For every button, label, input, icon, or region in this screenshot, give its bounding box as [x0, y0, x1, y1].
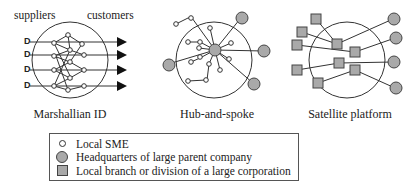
supplier-marker-4: D: [24, 80, 31, 90]
legend-label: Headquarters of large parent company: [76, 151, 252, 163]
supplier-marker-2: D: [24, 49, 31, 59]
supplier-marker-1: D: [24, 36, 31, 46]
legend-label: Local branch or division of a large corp…: [76, 165, 291, 177]
marshallian-diagram: [30, 22, 117, 98]
hub-spoke-sme-nodes: [174, 16, 234, 84]
caption-hub-and-spoke: Hub-and-spoke: [172, 107, 262, 122]
satellite-hq-nodes: [388, 13, 402, 94]
legend-item-local-branch: Local branch or division of a large corp…: [56, 164, 292, 178]
caption-marshallian: Marshallian ID: [30, 107, 110, 122]
legend: Local SME Headquarters of large parent c…: [49, 133, 299, 181]
large-gray-circle-icon: [56, 151, 70, 164]
caption-satellite-platform: Satellite platform: [300, 107, 400, 122]
satellite-branch-nodes: [292, 14, 360, 88]
small-open-circle-icon: [56, 137, 70, 150]
legend-label: Local SME: [76, 138, 129, 150]
supplier-marker-3: D: [24, 64, 31, 74]
suppliers-label: suppliers: [14, 9, 56, 21]
marshallian-arrows: [117, 37, 127, 91]
gray-square-icon: [56, 164, 70, 177]
legend-item-headquarters: Headquarters of large parent company: [56, 151, 292, 165]
legend-item-local-sme: Local SME: [56, 137, 292, 151]
customers-label: customers: [87, 9, 134, 21]
satellite-diagram: [297, 19, 395, 98]
